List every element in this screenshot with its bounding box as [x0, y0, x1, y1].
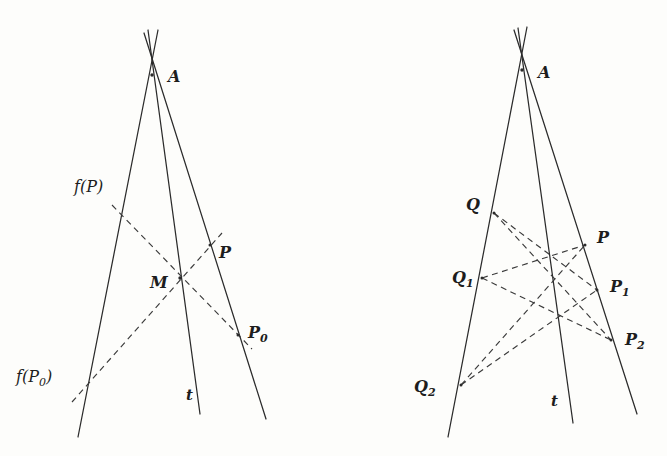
label-P1-base: P	[609, 277, 623, 296]
label-P-right: P	[596, 228, 610, 247]
label-Q2-sub: 2	[427, 386, 436, 399]
label-P1-sub: 1	[622, 286, 630, 299]
point-P2	[610, 339, 613, 342]
geometry-canvas: A f(P) M P P0 f(P0) t	[0, 0, 667, 456]
label-A-left: A	[166, 67, 180, 86]
label-f-of-P0: f(P0)	[15, 367, 52, 389]
left-dashed-lines	[72, 205, 252, 402]
label-t-left: t	[186, 386, 193, 404]
point-A-left	[150, 73, 153, 76]
point-P1	[596, 289, 599, 292]
left-line-mid-ray-t	[148, 30, 200, 414]
right-dashed-Q2-to-P	[461, 245, 585, 385]
point-Q	[493, 212, 496, 215]
label-P2-base: P	[624, 330, 638, 349]
label-Q2: Q2	[414, 377, 436, 399]
right-line-right-ray	[514, 30, 637, 414]
right-line-mid-ray-t	[518, 28, 573, 423]
label-P0: P0	[247, 323, 268, 345]
label-M: M	[149, 273, 169, 292]
label-P0-sub: 0	[260, 332, 268, 345]
right-dashed-Q2-to-P1	[461, 290, 597, 385]
label-t-right: t	[551, 392, 558, 410]
label-Q2-base: Q	[414, 377, 428, 396]
label-Q1-base: Q	[452, 268, 466, 287]
label-P2: P2	[624, 330, 645, 352]
right-dashed-lines	[461, 213, 611, 385]
label-Q1: Q1	[452, 268, 474, 290]
label-Q1-sub: 1	[466, 277, 474, 290]
left-line-right-ray	[144, 33, 266, 419]
point-A-right	[520, 68, 523, 71]
left-diagram: A f(P) M P P0 f(P0) t	[15, 30, 268, 437]
label-P-left: P	[218, 243, 232, 262]
left-points	[150, 73, 239, 336]
right-dashed-Q1-to-P2	[482, 278, 611, 340]
label-A-right: A	[536, 63, 550, 82]
right-diagram: A Q Q1 Q2 P P1 P2 t	[414, 27, 645, 437]
right-dashed-Q1-to-P	[482, 245, 585, 278]
label-f-of-P0-sub: 0	[39, 376, 46, 389]
left-solid-lines	[78, 30, 266, 437]
point-Q2	[460, 384, 463, 387]
right-points	[460, 68, 613, 386]
left-dashed-fP-to-P0	[112, 205, 252, 349]
label-Q: Q	[466, 195, 480, 214]
label-f-of-P0-suffix: )	[45, 367, 52, 386]
label-P0-base: P	[247, 323, 261, 342]
label-P2-sub: 2	[636, 339, 645, 352]
point-M	[178, 276, 181, 279]
point-P0	[237, 334, 240, 337]
label-P1: P1	[609, 277, 630, 299]
point-P-left	[209, 244, 212, 247]
right-line-left-ray	[448, 27, 527, 437]
label-f-of-P: f(P)	[73, 177, 103, 196]
left-dashed-fP0-to-P	[72, 233, 222, 402]
point-Q1	[481, 277, 484, 280]
figure-container: A f(P) M P P0 f(P0) t	[0, 0, 667, 456]
point-P-right	[584, 244, 587, 247]
label-f-of-P0-base: f(P	[15, 367, 39, 386]
left-line-left-ray	[78, 30, 158, 437]
